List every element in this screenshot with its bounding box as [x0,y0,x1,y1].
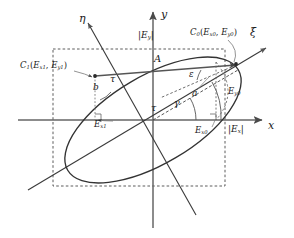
axis-label-x: x [268,120,274,131]
right-angle-mark-c0 [210,114,216,120]
axis-label-eta: η [79,13,86,24]
abs-bar-right: | [151,30,154,40]
ex-base: E [231,124,238,134]
c0-point [234,62,238,66]
angle-label-tau-center: τ [151,103,156,113]
c1-leader [74,71,92,77]
paren-close: ) [234,27,237,37]
angle-label-tau-upper: τ [110,74,115,84]
paren-close: ) [64,60,67,70]
chord-label-A: A [154,54,161,64]
semi-major-label-a: a [192,89,197,98]
abs-bar-right: | [241,124,244,134]
angle-label-gamma: γ [174,98,180,108]
angle-label-epsilon: ε [189,70,194,79]
ey-magnitude-label: |Ey| [138,31,154,41]
ex0-sub: x0 [201,129,207,135]
ey0-sub: y0 [234,90,240,96]
semi-minor-label-b: b [93,83,99,92]
figure-canvas: y x ξ η |Ey| |Ex| C0(Ex0, Ey0) C1(Ex1, E… [0,0,294,238]
ey-base: E [141,30,148,40]
point-label-c0: C0(Ex0, Ey0) [190,28,237,37]
c1-point [93,74,97,78]
ex0-leader [212,120,215,127]
epsilon-angle-arc [197,70,201,80]
c0-leader [228,40,236,62]
ex0-label: Ex0 [195,126,208,135]
ex-magnitude-label: |Ex| [228,125,244,135]
tau-angle-arc [190,98,196,120]
bounding-box-dashed [53,49,225,186]
eta-axis [88,23,196,215]
point-label-c1: C1(Ex1, Ey1) [20,61,67,70]
ey0-label: Ey0 [228,87,241,96]
ex1-sub: x1 [100,123,106,129]
axis-label-y: y [161,9,167,20]
ex1-label: Ex1 [94,120,107,129]
axis-label-xi: ξ [250,27,256,38]
